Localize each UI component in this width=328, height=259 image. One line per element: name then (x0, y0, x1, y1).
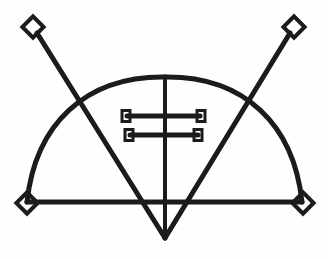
sigil-drawing (0, 0, 328, 259)
dome-arc-right-half (165, 77, 302, 202)
sigil-canvas: Goetic Seal Sigil (0, 0, 328, 259)
dome-arc (27, 77, 165, 202)
